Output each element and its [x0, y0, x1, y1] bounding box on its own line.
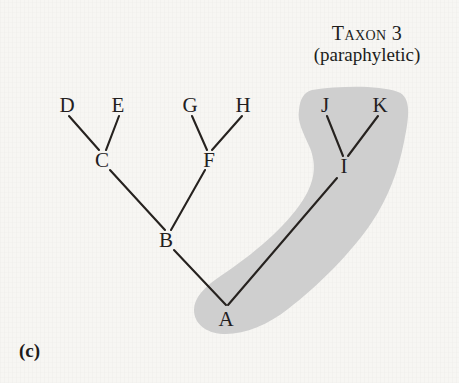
branch-G-F — [192, 116, 207, 150]
node-label-K: K — [372, 95, 387, 116]
branch-D-C — [69, 116, 99, 150]
panel-letter: (c) — [19, 340, 40, 362]
clade-title-main: Taxon 3 — [283, 22, 451, 44]
clade-title: Taxon 3 (paraphyletic) — [283, 22, 451, 66]
node-label-J: J — [321, 95, 329, 116]
node-label-H: H — [235, 95, 250, 116]
branch-E-C — [106, 116, 119, 150]
branch-F-B — [171, 170, 205, 230]
clade-title-sub: (paraphyletic) — [283, 44, 451, 65]
node-label-F: F — [203, 150, 215, 171]
node-label-B: B — [159, 230, 173, 251]
branch-C-B — [110, 170, 165, 230]
node-label-E: E — [112, 95, 125, 116]
paraphyletic-highlight-shape — [194, 87, 408, 334]
node-label-C: C — [95, 150, 109, 171]
node-label-D: D — [59, 95, 74, 116]
cladogram-figure: D E G H J K C F I B A Taxon 3 (paraphyle… — [0, 0, 459, 383]
branch-H-F — [212, 116, 242, 150]
node-label-I: I — [341, 156, 348, 177]
node-label-G: G — [182, 95, 197, 116]
node-label-A: A — [218, 309, 233, 330]
